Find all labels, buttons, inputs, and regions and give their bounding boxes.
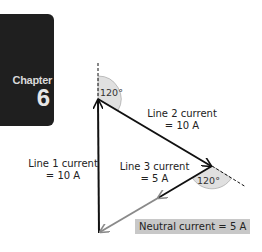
line2-label-value: = 10 A — [142, 120, 222, 132]
line1-label-name: Line 1 current — [28, 158, 98, 170]
phasor-diagram — [0, 0, 262, 252]
line2-label-name: Line 2 current — [142, 108, 222, 120]
neutral-current-label: Neutral current = 5 A — [135, 219, 250, 234]
line2-label: Line 2 current = 10 A — [142, 108, 222, 132]
line3-label-name: Line 3 current — [117, 161, 192, 173]
line1-vector — [98, 100, 99, 233]
line1-label-value: = 10 A — [28, 170, 98, 182]
angle-label-top: 120° — [100, 87, 123, 98]
line3-label-value: = 5 A — [117, 173, 192, 185]
line1-label: Line 1 current = 10 A — [28, 158, 98, 182]
page: Chapter 6 120° 120° Line 1 current — [0, 0, 262, 252]
line3-label: Line 3 current = 5 A — [117, 161, 192, 185]
angle-label-right: 120° — [197, 175, 220, 186]
